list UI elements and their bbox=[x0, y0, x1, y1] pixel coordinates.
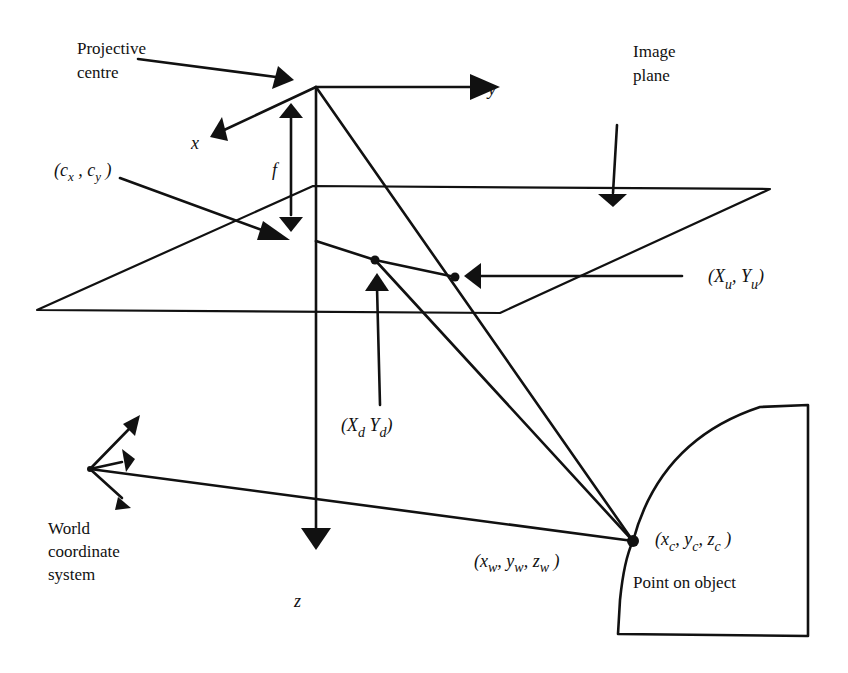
focal-length-marker bbox=[279, 103, 303, 232]
world-axes bbox=[87, 415, 140, 510]
world-coordinate-label-3: system bbox=[48, 565, 95, 584]
undistorted-arrowhead-icon bbox=[464, 263, 481, 289]
world-point-label: (xw, yw, zw ) bbox=[474, 551, 560, 575]
camera-model-diagram: Projective centre y x f z (cx , cy ) Ima… bbox=[0, 0, 848, 673]
principal-to-distorted-line bbox=[316, 241, 375, 260]
object-outline bbox=[618, 405, 808, 636]
image-plane bbox=[37, 186, 770, 313]
undistorted-point-label: (Xu, Yu) bbox=[708, 266, 764, 292]
distorted-point-dot bbox=[371, 256, 380, 265]
distorted-arrowhead-icon bbox=[365, 273, 389, 291]
projection-ray bbox=[316, 87, 633, 541]
image-plane-label-2: plane bbox=[633, 66, 670, 85]
y-axis-label: y bbox=[486, 79, 496, 99]
world-axis-3-arrowhead-icon bbox=[115, 497, 131, 510]
projective-centre-label-2: centre bbox=[77, 63, 119, 82]
world-coordinate-label-1: World bbox=[48, 519, 91, 538]
x-axis-label: x bbox=[190, 133, 199, 153]
image-plane-arrowhead-icon bbox=[598, 194, 627, 207]
principal-point-label: (cx , cy ) bbox=[54, 160, 112, 184]
projective-centre-arrowhead-icon bbox=[272, 66, 294, 89]
world-axis-1 bbox=[90, 428, 130, 469]
z-axis-arrowhead-icon bbox=[301, 528, 331, 550]
principal-point-pointer-line bbox=[120, 178, 270, 233]
projective-centre-pointer-line bbox=[138, 59, 276, 77]
world-axis-2-arrowhead-icon bbox=[122, 449, 135, 472]
distorted-ray bbox=[375, 260, 633, 541]
object-point-dot bbox=[627, 535, 639, 547]
undistorted-point-dot bbox=[451, 273, 460, 282]
image-plane-pointer-line bbox=[613, 125, 617, 193]
object-point-label: Point on object bbox=[633, 573, 736, 592]
distorted-pointer-line bbox=[377, 287, 380, 405]
projective-centre-label-1: Projective bbox=[77, 39, 146, 58]
z-axis-label: z bbox=[293, 591, 301, 611]
world-to-point-line bbox=[90, 469, 633, 541]
image-plane-label-1: Image bbox=[633, 42, 675, 61]
world-coordinate-label-2: coordinate bbox=[48, 542, 120, 561]
camera-point-label: (xc, yc, zc ) bbox=[655, 529, 731, 554]
focal-length-label: f bbox=[272, 160, 280, 180]
distorted-point-label: (Xd Yd) bbox=[341, 415, 393, 440]
focal-down-arrowhead-icon bbox=[279, 217, 303, 232]
focal-up-arrowhead-icon bbox=[279, 103, 303, 118]
x-axis-line bbox=[222, 87, 316, 131]
